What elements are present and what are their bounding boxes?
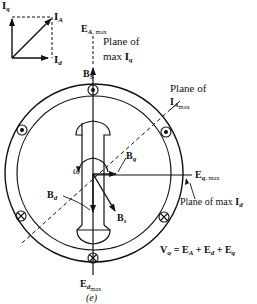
conductor-cross-left [16,211,26,221]
ed-max-label: Edmax [80,279,101,293]
bs-top-label: BS [83,69,94,81]
bd-label: Bd [47,190,57,202]
omega-label: ω [73,166,80,176]
conductor-dot-left [17,125,27,135]
plane-iq-line1: Plane of [103,36,139,47]
plane-iq-line2: max Iq [103,51,132,64]
plane-ia-line1: Plane of [170,83,206,94]
bs-label: Bs [117,213,126,225]
id-label: Id [54,54,62,67]
bq-label: Bq [126,151,136,163]
ia-label: IA [54,11,63,24]
plane-id-label: Plane of max Id [180,197,243,209]
plane-ia-line2: IAmax [170,97,190,111]
voltage-equation: Vφ = EA + Ed + Eq [160,245,235,257]
figure-caption: (e) [86,293,97,303]
stator-outer-ring [5,84,183,262]
conductor-dot-right [161,127,171,137]
eq-max-label: Eq, max [195,170,220,182]
phasor-diagram [12,17,52,58]
iq-label: Iq [2,0,10,13]
conductor-cross-right [159,212,169,222]
